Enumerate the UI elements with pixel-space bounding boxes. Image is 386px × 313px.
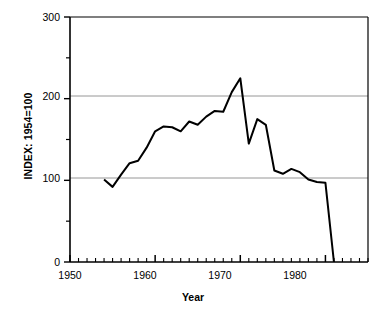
y-tick-label-0: 0	[20, 257, 60, 268]
chart-figure: INDEX: 1954=100 Year 300 200 100 0 1950 …	[0, 0, 386, 313]
y-tick-label-300: 300	[20, 12, 60, 23]
gridlines	[70, 96, 368, 178]
axis-frame	[70, 17, 368, 262]
y-axis-ticks	[64, 17, 70, 262]
x-axis-title: Year	[0, 291, 386, 303]
y-tick-label-200: 200	[20, 91, 60, 102]
x-tick-label-1970: 1970	[197, 270, 243, 281]
x-tick-label-1980: 1980	[272, 270, 318, 281]
data-series-line	[104, 78, 334, 262]
x-axis-ticks	[70, 255, 368, 262]
x-tick-label-1960: 1960	[122, 270, 168, 281]
x-tick-label-1950: 1950	[47, 270, 93, 281]
y-axis-title: INDEX: 1954=100	[22, 56, 34, 216]
y-tick-label-100: 100	[20, 173, 60, 184]
